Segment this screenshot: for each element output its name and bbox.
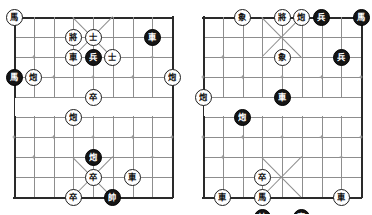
- piece-light-將[interactable]: 將: [65, 29, 82, 46]
- left-board: 馬將士車車兵士馬炮炮卒炮炮卒車卒帥: [14, 17, 172, 197]
- piece-dark-車[interactable]: 車: [144, 29, 161, 46]
- star-point: [91, 75, 96, 80]
- star-point: [150, 55, 155, 60]
- piece-light-將[interactable]: 將: [274, 9, 291, 26]
- piece-light-車[interactable]: 車: [65, 49, 82, 66]
- star-point: [51, 135, 56, 140]
- piece-glyph: 士: [109, 53, 117, 61]
- file-line: [361, 16, 363, 198]
- piece-glyph: 卒: [258, 173, 266, 181]
- star-point: [31, 155, 36, 160]
- piece-dark-帥[interactable]: 帥: [254, 209, 271, 215]
- piece-glyph: 馬: [258, 193, 266, 201]
- piece-glyph: 將: [278, 13, 286, 21]
- file-line: [172, 16, 174, 198]
- rank-line: [13, 197, 173, 199]
- star-point: [130, 135, 135, 140]
- piece-dark-馬[interactable]: 馬: [353, 9, 370, 26]
- piece-light-炮[interactable]: 炮: [25, 69, 42, 86]
- piece-dark-兵[interactable]: 兵: [85, 49, 102, 66]
- piece-glyph: 炮: [238, 113, 246, 121]
- piece-glyph: 卒: [89, 173, 97, 181]
- piece-glyph: 炮: [199, 93, 207, 101]
- star-point: [240, 135, 245, 140]
- piece-dark-炮[interactable]: 炮: [85, 149, 102, 166]
- piece-glyph: 車: [69, 53, 77, 61]
- piece-light-卒[interactable]: 卒: [65, 189, 82, 206]
- star-point: [319, 75, 324, 80]
- piece-glyph: 車: [128, 173, 136, 181]
- piece-dark-帥[interactable]: 帥: [104, 189, 121, 206]
- piece-light-炮[interactable]: 炮: [195, 89, 212, 106]
- star-point: [339, 155, 344, 160]
- star-point: [130, 75, 135, 80]
- piece-glyph: 象: [278, 53, 286, 61]
- star-point: [280, 75, 285, 80]
- piece-light-象[interactable]: 象: [274, 49, 291, 66]
- piece-dark-車[interactable]: 車: [274, 89, 291, 106]
- piece-dark-兵[interactable]: 兵: [333, 49, 350, 66]
- piece-glyph: 炮: [168, 73, 176, 81]
- piece-glyph: 炮: [30, 73, 38, 81]
- piece-glyph: 象: [238, 13, 246, 21]
- piece-glyph: 車: [278, 93, 286, 101]
- piece-glyph: 兵: [317, 13, 325, 21]
- piece-light-車[interactable]: 車: [214, 189, 231, 206]
- star-point: [91, 135, 96, 140]
- star-point: [240, 75, 245, 80]
- piece-glyph: 馬: [10, 73, 18, 81]
- star-point: [220, 155, 225, 160]
- piece-light-卒[interactable]: 卒: [254, 169, 271, 186]
- piece-glyph: 士: [89, 33, 97, 41]
- piece-glyph: 炮: [89, 153, 97, 161]
- piece-dark-車[interactable]: 車: [293, 209, 310, 215]
- piece-light-象[interactable]: 象: [234, 9, 251, 26]
- piece-glyph: 兵: [337, 53, 345, 61]
- piece-light-炮[interactable]: 炮: [164, 69, 181, 86]
- piece-light-炮[interactable]: 炮: [65, 109, 82, 126]
- piece-dark-馬[interactable]: 馬: [6, 69, 23, 86]
- piece-light-士[interactable]: 士: [104, 49, 121, 66]
- piece-glyph: 車: [337, 193, 345, 201]
- star-point: [319, 135, 324, 140]
- board-grid: [203, 17, 361, 197]
- piece-light-士[interactable]: 士: [85, 29, 102, 46]
- piece-light-炮[interactable]: 炮: [293, 9, 310, 26]
- piece-dark-炮[interactable]: 炮: [234, 109, 251, 126]
- diagram-sheet: 馬將士車車兵士馬炮炮卒炮炮卒車卒帥象將炮兵馬象兵車炮炮卒馬車車帥車: [0, 0, 372, 214]
- piece-glyph: 馬: [357, 13, 365, 21]
- right-board: 象將炮兵馬象兵車炮炮卒馬車車帥車: [203, 17, 361, 197]
- star-point: [31, 55, 36, 60]
- star-point: [280, 135, 285, 140]
- piece-light-卒[interactable]: 卒: [85, 89, 102, 106]
- piece-glyph: 炮: [298, 13, 306, 21]
- piece-glyph: 炮: [69, 113, 77, 121]
- piece-light-卒[interactable]: 卒: [85, 169, 102, 186]
- piece-dark-兵[interactable]: 兵: [313, 9, 330, 26]
- piece-glyph: 將: [69, 33, 77, 41]
- star-point: [51, 75, 56, 80]
- piece-glyph: 帥: [109, 193, 117, 201]
- piece-light-車[interactable]: 車: [124, 169, 141, 186]
- piece-glyph: 兵: [89, 53, 97, 61]
- piece-glyph: 卒: [69, 193, 77, 201]
- star-point: [150, 155, 155, 160]
- piece-glyph: 帥: [258, 213, 266, 214]
- piece-glyph: 車: [148, 33, 156, 41]
- star-point: [220, 55, 225, 60]
- piece-glyph: 車: [219, 193, 227, 201]
- piece-light-馬[interactable]: 馬: [254, 189, 271, 206]
- piece-glyph: 卒: [89, 93, 97, 101]
- piece-glyph: 車: [298, 213, 306, 214]
- piece-glyph: 馬: [10, 13, 18, 21]
- piece-light-馬[interactable]: 馬: [6, 9, 23, 26]
- piece-light-車[interactable]: 車: [333, 189, 350, 206]
